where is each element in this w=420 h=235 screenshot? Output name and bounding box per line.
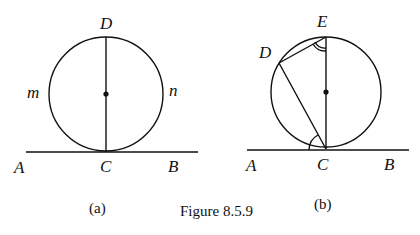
sub-caption-a: (a): [89, 200, 106, 217]
panel-a: D m n A C B (a): [13, 14, 198, 217]
label-b: B: [168, 157, 179, 176]
angle-mark-c: [309, 135, 318, 150]
label-c: C: [100, 157, 112, 176]
label-e: E: [316, 12, 328, 31]
center-point-b: [323, 89, 328, 94]
label-n: n: [169, 81, 178, 100]
chord-dc: [279, 63, 326, 149]
label-b: B: [384, 155, 395, 174]
sub-caption-b: (b): [314, 196, 332, 213]
label-m: m: [27, 83, 39, 102]
label-d: D: [99, 14, 113, 33]
panel-b: E D A C B (b): [245, 12, 409, 213]
label-a: A: [13, 158, 25, 177]
label-c: C: [317, 155, 329, 174]
figure-canvas: D m n A C B (a) E D A C B (b) Figure 8.5…: [0, 0, 420, 235]
label-a: A: [245, 156, 257, 175]
label-d: D: [258, 43, 272, 62]
center-point-a: [103, 91, 108, 96]
figure-caption: Figure 8.5.9: [180, 203, 253, 219]
